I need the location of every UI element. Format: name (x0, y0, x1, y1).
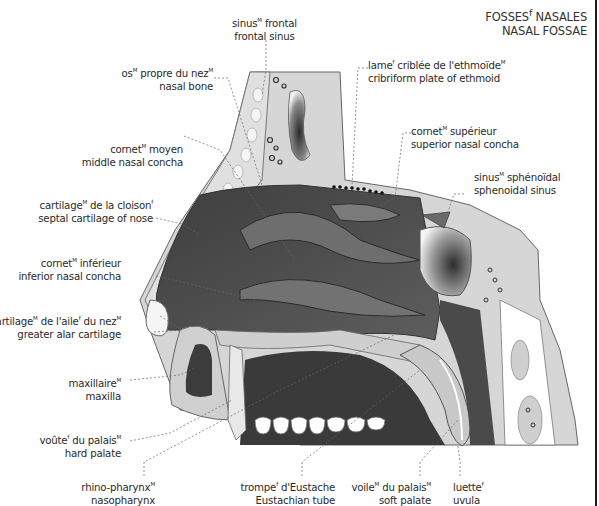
frame-border (595, 0, 597, 506)
label-frontal-sinus: sinusM frontal frontal sinus (232, 14, 297, 43)
label-septal-cartilage: cartilageM de la cloisonf septal cartila… (38, 196, 153, 225)
label-cribriform-plate: lamef criblée de l'ethmoïdeM cribriform … (368, 56, 505, 85)
label-inferior-nasal-concha: cornetM inférieur inferior nasal concha (18, 254, 121, 283)
label-maxilla: maxillaireM maxilla (68, 374, 121, 403)
label-nasal-bone: osM propre du nezM nasal bone (121, 64, 213, 93)
label-soft-palate: voileM du palaisM soft palate (351, 478, 431, 506)
label-eustachian-tube: trompef d'Eustache Eustachian tube (241, 478, 335, 506)
title-en: NASAL FOSSAE (485, 24, 587, 38)
diagram-frame: FOSSESf NASALES NASAL FOSSAE sinusM fron… (0, 0, 599, 506)
sphenoidal-sinus-cavity (420, 227, 471, 296)
label-superior-nasal-concha: cornetM supérieur superior nasal concha (411, 122, 519, 151)
label-hard-palate: voûtef du palaisM hard palate (39, 431, 121, 460)
label-uvula: luettef uvula (453, 478, 483, 506)
diagram-title: FOSSESf NASALES NASAL FOSSAE (485, 6, 587, 38)
title-fr: FOSSESf NASALES (485, 6, 587, 24)
label-greater-alar-cartilage: cartilageM de l'ailef du nezM greater al… (0, 312, 121, 341)
nasal-cavity (156, 185, 440, 345)
label-middle-nasal-concha: cornetM moyen middle nasal concha (82, 140, 183, 169)
label-nasopharynx: rhino-pharynxM nasopharynx (81, 478, 155, 506)
label-sphenoidal-sinus: sinusM sphénoïdal sphenoidal sinus (474, 168, 561, 197)
